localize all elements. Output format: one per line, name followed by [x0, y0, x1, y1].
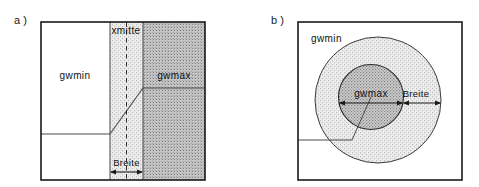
- figure-root: a ) gwmin xmitte gwmax: [0, 0, 479, 187]
- diagram-canvas: a ) gwmin xmitte gwmax: [0, 0, 479, 187]
- panel-a-breite-dimension: Breite: [110, 157, 143, 174]
- panel-a: a ) gwmin xmitte gwmax: [14, 14, 205, 180]
- panel-b: b ) gwmin gwmax Breite: [271, 14, 462, 180]
- panel-b-label-breite: Breite: [403, 88, 430, 99]
- panel-a-label-breite: Breite: [113, 157, 140, 168]
- panel-b-label-gwmin: gwmin: [311, 33, 342, 44]
- panel-a-label-gwmax: gwmax: [157, 70, 191, 81]
- panel-a-gwmax-region: [143, 22, 205, 180]
- panel-b-caption: b ): [271, 14, 284, 26]
- panel-b-label-gwmax: gwmax: [354, 88, 388, 99]
- panel-a-label-xmitte: xmitte: [111, 25, 140, 36]
- panel-a-label-gwmin: gwmin: [60, 70, 91, 81]
- panel-a-caption: a ): [14, 14, 27, 26]
